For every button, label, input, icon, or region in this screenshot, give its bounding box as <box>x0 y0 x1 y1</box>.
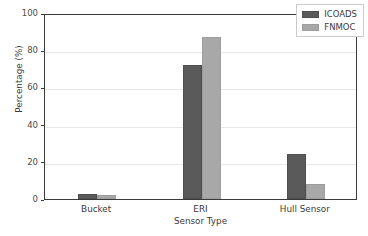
y-tick-mark <box>41 125 45 126</box>
x-tick-label: Bucket <box>81 204 111 214</box>
bar-fnmoc-bucket <box>97 195 116 199</box>
x-tick: ERI <box>193 200 207 214</box>
y-axis-label: Percentage (%) <box>14 14 24 144</box>
bar-icoads-hull-sensor <box>287 154 306 199</box>
bar-fnmoc-hull-sensor <box>306 184 325 199</box>
y-tick-label: 80 <box>27 45 38 56</box>
bar-chart-figure: 020406080100 Percentage (%) BucketERIHul… <box>0 0 368 236</box>
bar-icoads-bucket <box>78 194 97 199</box>
y-tick-label: 60 <box>27 82 38 93</box>
legend-swatch-icon <box>302 11 319 18</box>
x-tick: Hull Sensor <box>280 200 330 214</box>
plot-area <box>44 14 357 200</box>
y-tick-label: 100 <box>22 8 38 19</box>
y-tick-mark <box>41 162 45 163</box>
y-tick-mark <box>41 88 45 89</box>
x-tick-label: Hull Sensor <box>280 204 330 214</box>
bar-icoads-eri <box>183 65 202 199</box>
legend: ICOADSFNMOC <box>296 4 364 37</box>
y-tick-label: 40 <box>27 120 38 131</box>
legend-item-icoads[interactable]: ICOADS <box>302 9 357 19</box>
x-tick: Bucket <box>81 200 111 214</box>
legend-label: FNMOC <box>324 22 355 32</box>
x-tick-label: ERI <box>193 204 207 214</box>
legend-label: ICOADS <box>324 9 357 19</box>
y-tick-mark <box>41 51 45 52</box>
bar-fnmoc-eri <box>202 37 221 199</box>
y-tick-label: 0 <box>33 194 38 205</box>
x-axis-ticks: BucketERIHull Sensor <box>44 200 357 216</box>
legend-item-fnmoc[interactable]: FNMOC <box>302 22 357 32</box>
y-tick-label: 20 <box>27 157 38 168</box>
gridline <box>45 52 356 53</box>
y-tick-mark <box>41 14 45 15</box>
legend-swatch-icon <box>302 24 319 31</box>
x-axis-label: Sensor Type <box>44 216 357 226</box>
